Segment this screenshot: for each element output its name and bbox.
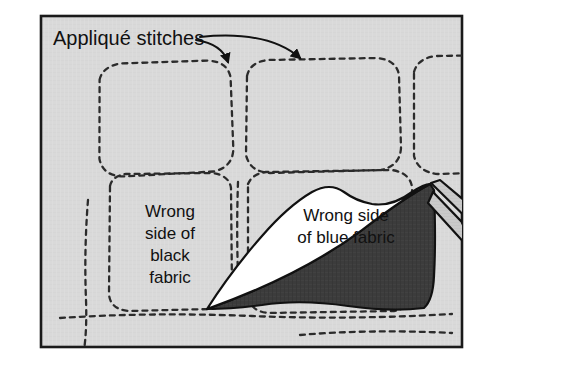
label-black-fabric-line-1: Wrong bbox=[145, 202, 195, 221]
applique-illustration-svg: Appliqué stitches Wrong side of black fa… bbox=[0, 0, 572, 368]
label-blue-fabric-line-1: Wrong side bbox=[303, 206, 389, 225]
illustration-root: Appliqué stitches Wrong side of black fa… bbox=[0, 0, 572, 368]
callout-label-applique-stitches: Appliqué stitches bbox=[53, 27, 204, 49]
label-black-fabric-line-3: black bbox=[150, 246, 190, 265]
label-black-fabric-line-2: side of bbox=[145, 224, 195, 243]
label-blue-fabric-line-2: of blue fabric bbox=[297, 228, 395, 247]
label-black-fabric-line-4: fabric bbox=[149, 268, 191, 287]
